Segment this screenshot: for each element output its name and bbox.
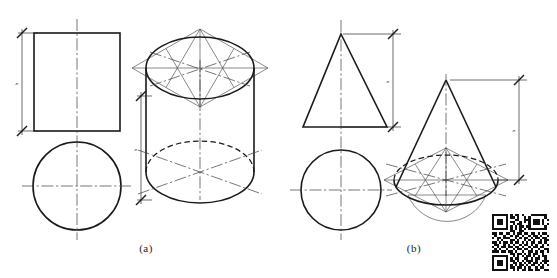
qr-code-canvas[interactable] (492, 214, 549, 271)
construction-arc-below-base (408, 195, 486, 221)
caption-a: (a) (139, 242, 153, 255)
cone-dimension-label: h (385, 80, 390, 83)
qr-code[interactable] (492, 214, 549, 271)
technical-drawing-figure: h (0, 0, 557, 278)
dimension-label: h (14, 82, 19, 85)
cone-iso-dimension-label: h (511, 129, 516, 132)
cone-right-slant-line (446, 80, 496, 187)
cone-height-dimension: h (341, 29, 401, 132)
cone-four-center-line-2 (446, 148, 477, 196)
drawing-canvas: h (0, 0, 557, 278)
front-view-triangle-outline (303, 34, 387, 127)
iso-dimension-label: h (133, 148, 138, 151)
cone-isometric-view: h (384, 74, 527, 221)
cone-front-view-triangle (303, 34, 387, 127)
cylinder-panel: h (14, 19, 268, 255)
cone-left-slant-line (396, 80, 446, 187)
cylinder-top-view-circle (22, 142, 133, 230)
cylinder-isometric-view: h (132, 29, 268, 205)
caption-b: (b) (407, 242, 421, 255)
cylinder-isometric-height-dimension: h (133, 91, 152, 205)
